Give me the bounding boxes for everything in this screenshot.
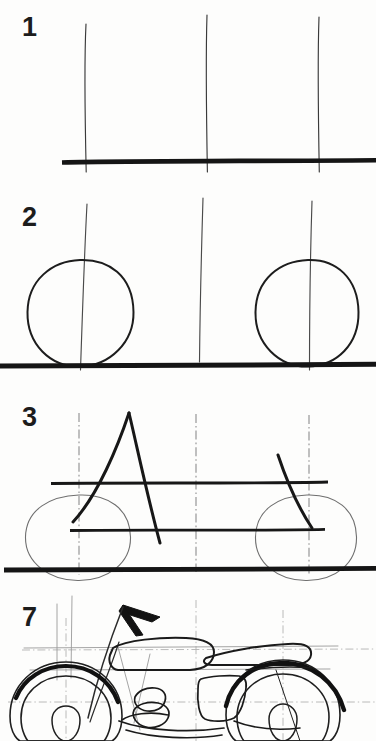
ground-line — [62, 160, 376, 162]
upper-rail-line — [51, 482, 328, 484]
vertical-guide-right — [310, 201, 313, 370]
step-2-drawing — [0, 190, 376, 390]
front-fender — [16, 666, 118, 702]
ground-line — [0, 364, 376, 366]
rear-spoke-line — [276, 670, 300, 741]
centerlines — [79, 413, 309, 575]
step-panel-7: 7 — [0, 590, 376, 741]
step-panel-1: 1 — [0, 0, 376, 190]
engine-block — [122, 688, 169, 728]
fuel-tank — [109, 638, 214, 670]
a-frame-left-leg — [73, 413, 129, 522]
vertical-guide-middle — [200, 198, 204, 362]
tutorial-page: 1 2 3 — [0, 0, 376, 741]
ground-line — [4, 568, 376, 570]
exhaust — [119, 721, 224, 738]
a-frame-right-leg — [129, 413, 160, 543]
lower-rail-line — [70, 529, 325, 530]
step-1-drawing — [0, 0, 376, 190]
guide-horizontal-upper — [22, 649, 376, 650]
step-7-drawing — [0, 590, 376, 741]
step-panel-2: 2 — [0, 190, 376, 390]
front-wheel-circle — [27, 260, 133, 367]
vertical-guide-left — [85, 24, 86, 172]
handlebar-arrow — [119, 605, 160, 636]
vertical-guide-right — [318, 17, 319, 172]
step-panel-3: 3 — [0, 390, 376, 590]
rear-wheel-circle — [255, 260, 358, 367]
vertical-guide-left — [81, 204, 88, 370]
step-3-drawing — [0, 390, 376, 590]
rear-fork — [278, 455, 312, 528]
vertical-guide-middle — [206, 15, 207, 172]
